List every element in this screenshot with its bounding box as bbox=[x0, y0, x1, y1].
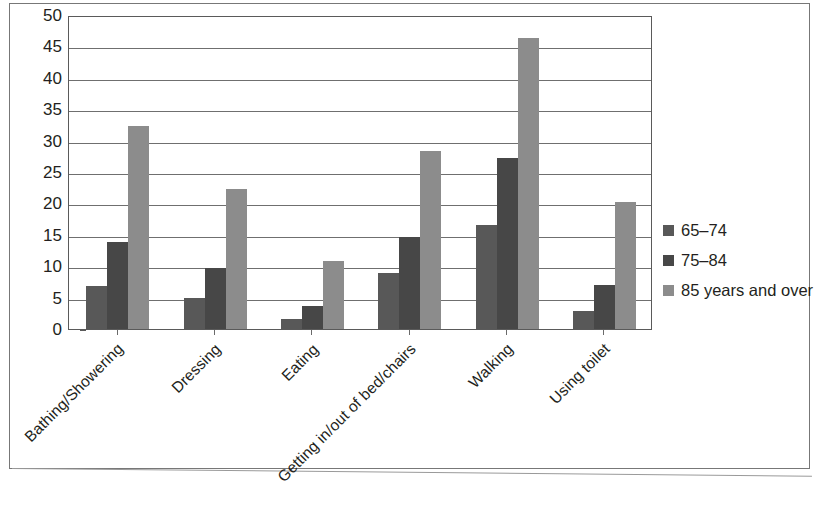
gridline bbox=[69, 174, 651, 175]
bar bbox=[302, 306, 323, 329]
y-axis-tick-label: 45 bbox=[22, 38, 62, 55]
legend-swatch-icon bbox=[663, 285, 674, 296]
bar bbox=[226, 189, 247, 329]
bar bbox=[518, 38, 539, 329]
bar bbox=[420, 151, 441, 329]
bar bbox=[378, 273, 399, 329]
legend-item: 75–84 bbox=[663, 245, 813, 275]
bar-group bbox=[378, 17, 441, 329]
x-axis-tick-mark bbox=[214, 330, 215, 335]
gridline bbox=[69, 143, 651, 144]
bar bbox=[323, 261, 344, 329]
legend-swatch-icon bbox=[663, 225, 674, 236]
bar-chart-figure: 50454035302520151050 Bathing/ShoweringDr… bbox=[0, 0, 827, 512]
legend-label: 65–74 bbox=[681, 222, 727, 239]
y-axis-tick-label: 50 bbox=[22, 7, 62, 24]
x-axis-tick-mark bbox=[506, 330, 507, 335]
x-axis-tick-mark bbox=[409, 330, 410, 335]
bar bbox=[615, 202, 636, 329]
y-axis-tick-label: 25 bbox=[22, 164, 62, 181]
y-axis-tick-label: 0 bbox=[22, 321, 62, 338]
bar bbox=[281, 319, 302, 329]
chart-legend: 65–7475–8485 years and over bbox=[663, 215, 813, 305]
legend-item: 65–74 bbox=[663, 215, 813, 245]
y-axis-tick-label: 40 bbox=[22, 70, 62, 87]
bar bbox=[399, 237, 420, 329]
gridline bbox=[69, 80, 651, 81]
x-axis-tick-mark bbox=[311, 330, 312, 335]
x-axis-tick-mark bbox=[603, 330, 604, 335]
gridline bbox=[69, 205, 651, 206]
bar-group bbox=[573, 17, 636, 329]
bar bbox=[128, 126, 149, 329]
bar-group bbox=[281, 17, 344, 329]
bar bbox=[184, 298, 205, 329]
x-axis-tick-mark bbox=[117, 330, 118, 335]
y-axis-tick-label: 5 bbox=[22, 290, 62, 307]
bar-group bbox=[184, 17, 247, 329]
category-label: Using toilet bbox=[546, 340, 614, 408]
category-label: Eating bbox=[278, 340, 322, 384]
bar-group bbox=[476, 17, 539, 329]
legend-item: 85 years and over bbox=[663, 275, 813, 305]
gridline bbox=[69, 237, 651, 238]
gridline bbox=[69, 111, 651, 112]
bar bbox=[573, 311, 594, 329]
bar-group bbox=[86, 17, 149, 329]
category-label: Bathing/Showering bbox=[21, 340, 127, 446]
gridline bbox=[69, 48, 651, 49]
bar bbox=[476, 225, 497, 329]
legend-swatch-icon bbox=[663, 255, 674, 266]
y-axis-tick-label: 10 bbox=[22, 258, 62, 275]
y-axis-tick-label: 20 bbox=[22, 195, 62, 212]
y-axis-tick-label: 30 bbox=[22, 133, 62, 150]
bar bbox=[497, 158, 518, 329]
bar bbox=[86, 286, 107, 329]
legend-label: 75–84 bbox=[681, 252, 727, 269]
gridline bbox=[69, 268, 651, 269]
y-axis-tick-label: 15 bbox=[22, 227, 62, 244]
y-axis: 50454035302520151050 bbox=[18, 0, 62, 340]
y-axis-tick-label: 35 bbox=[22, 101, 62, 118]
plot-area bbox=[68, 16, 652, 330]
bar bbox=[107, 242, 128, 329]
category-label: Walking bbox=[465, 340, 517, 392]
bar bbox=[594, 285, 615, 329]
bar bbox=[205, 268, 226, 329]
legend-label: 85 years and over bbox=[681, 282, 813, 299]
y-axis-tick-mark bbox=[80, 330, 86, 331]
category-label: Dressing bbox=[168, 340, 225, 397]
gridline bbox=[69, 300, 651, 301]
